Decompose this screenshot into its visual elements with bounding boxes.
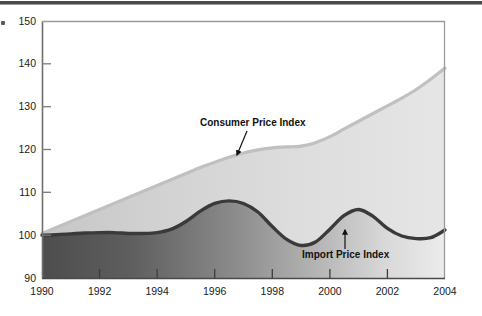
y-tick-label: 140	[18, 57, 36, 69]
x-tick-label: 1994	[145, 285, 169, 297]
chart-figure: 15014013012011010090 1990199219941996199…	[0, 0, 482, 316]
y-tick-label: 110	[19, 186, 36, 198]
series-annotation-label: Consumer Price Index	[200, 117, 306, 128]
y-tick-label: 90	[24, 272, 36, 284]
x-tick-label: 1998	[261, 285, 285, 297]
x-tick-label: 2002	[376, 285, 400, 297]
x-tick-label: 1992	[88, 285, 112, 297]
y-tick-label: 130	[18, 100, 36, 112]
y-tick-label: 120	[18, 143, 36, 155]
y-tick-label: 100	[18, 229, 36, 241]
x-tick-label: 1990	[30, 285, 54, 297]
price-index-chart: 15014013012011010090 1990199219941996199…	[0, 0, 482, 316]
x-tick-label: 1996	[203, 285, 227, 297]
y-axis-labels: 15014013012011010090	[18, 15, 36, 284]
x-axis-labels: 19901992199419961998200020022004	[30, 285, 457, 297]
x-tick-label: 2004	[433, 285, 457, 297]
series-annotation-label: Import Price Index	[302, 249, 390, 260]
y-tick-label: 150	[18, 15, 36, 27]
x-tick-label: 2000	[318, 285, 342, 297]
